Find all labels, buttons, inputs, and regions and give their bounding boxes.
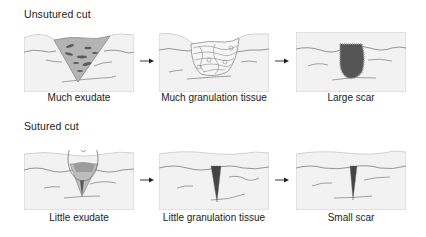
unsutured-exudate-illustration <box>24 32 134 92</box>
unsutured-granulation-panel <box>159 32 269 92</box>
arrow-right-icon <box>140 177 154 183</box>
small-scar-illustration <box>296 150 406 210</box>
arrow-right-icon <box>275 177 289 183</box>
unsutured-granulation-illustration <box>159 32 269 92</box>
large-scar-panel <box>296 32 406 92</box>
unsutured-cut-title: Unsutured cut <box>24 8 91 20</box>
caption-much-granulation-tissue: Much granulation tissue <box>144 92 284 103</box>
unsutured-exudate-panel <box>24 32 134 92</box>
sutured-cut-title: Sutured cut <box>24 120 79 132</box>
sutured-granulation-illustration <box>159 150 269 210</box>
caption-small-scar: Small scar <box>281 212 421 223</box>
caption-little-granulation-tissue: Little granulation tissue <box>144 212 284 223</box>
arrow-right-icon <box>275 58 289 64</box>
small-scar-panel <box>296 150 406 210</box>
caption-large-scar: Large scar <box>281 92 421 103</box>
caption-little-exudate: Little exudate <box>9 212 149 223</box>
sutured-exudate-illustration <box>24 150 134 210</box>
arrow-right-icon <box>140 58 154 64</box>
large-scar-illustration <box>296 32 406 92</box>
sutured-exudate-panel <box>24 150 134 210</box>
sutured-granulation-panel <box>159 150 269 210</box>
caption-much-exudate: Much exudate <box>9 92 149 103</box>
